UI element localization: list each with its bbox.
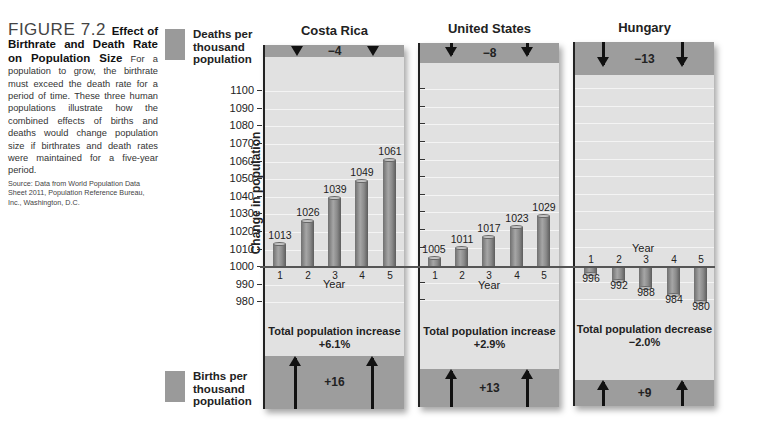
- total-label: Total population decrease: [575, 323, 714, 336]
- legend-births-line1: Births per: [193, 370, 252, 383]
- legend-deaths-line3: population: [193, 53, 252, 66]
- down-arrow-icon: [291, 46, 303, 56]
- figure-label: FIGURE 7.2: [8, 20, 106, 39]
- bar-year-5: [383, 160, 396, 267]
- figure-source: Source: Data from World Population Data …: [8, 179, 158, 208]
- up-arrow-icon: [371, 358, 374, 409]
- y-tick: 1000: [228, 260, 262, 272]
- births-value: +9: [575, 386, 714, 400]
- deaths-value: −8: [420, 46, 559, 60]
- down-arrow-icon: [602, 42, 605, 65]
- y-tick: 990: [228, 278, 262, 290]
- up-arrow-icon: [602, 382, 605, 406]
- figure-caption: FIGURE 7.2 Effect of Birthrate and Death…: [8, 24, 158, 208]
- bar-value: 1013: [264, 229, 296, 241]
- total-change: Total population decrease −2.0%: [575, 323, 714, 349]
- births-value: +16: [265, 375, 404, 389]
- x-axis-title: Year: [632, 242, 654, 254]
- y-tick: 1060: [228, 155, 262, 167]
- panel-title: Hungary: [575, 20, 714, 35]
- total-label: Total population increase: [420, 325, 559, 338]
- bar-year-3: [639, 267, 652, 288]
- bar-value: 1026: [292, 206, 324, 218]
- down-arrow-icon: [450, 43, 453, 55]
- down-arrow-icon: [681, 42, 684, 65]
- x-axis-title: Year: [323, 278, 345, 290]
- births-value: +13: [420, 381, 559, 395]
- y-tick: 1030: [228, 207, 262, 219]
- bar-value: 980: [685, 300, 717, 312]
- legend-births-line2: thousand: [193, 383, 252, 396]
- legend-births-swatch: [165, 371, 185, 402]
- births-band: +13: [420, 369, 559, 407]
- bar-year-2: [455, 248, 468, 267]
- legend-deaths-swatch: [165, 29, 185, 60]
- year-tick: 1: [584, 254, 598, 265]
- year-tick: 4: [510, 270, 524, 281]
- bar-year-2: [301, 221, 314, 267]
- total-change: Total population increase +6.1%: [265, 325, 404, 351]
- births-band: +9: [575, 380, 714, 406]
- y-tick: 1090: [228, 102, 262, 114]
- bar-value: 1029: [528, 201, 560, 213]
- bar-year-4: [355, 181, 368, 267]
- bar-year-3: [482, 237, 495, 267]
- bar-year-1: [273, 244, 286, 267]
- total-label: Total population increase: [265, 325, 404, 338]
- bar-value: 1011: [446, 233, 478, 245]
- total-change: Total population increase +2.9%: [420, 325, 559, 351]
- year-tick: 3: [639, 254, 653, 265]
- total-pct: +2.9%: [420, 338, 559, 351]
- up-arrow-icon: [526, 371, 529, 407]
- up-arrow-icon: [681, 382, 684, 406]
- year-tick: 1: [428, 270, 442, 281]
- year-tick: 5: [383, 270, 397, 281]
- year-tick: 2: [455, 270, 469, 281]
- year-tick: 4: [355, 270, 369, 281]
- y-tick: 1050: [228, 172, 262, 184]
- y-tick: 1080: [228, 119, 262, 131]
- deaths-band: −13: [575, 42, 714, 75]
- year-tick: 2: [612, 254, 626, 265]
- up-arrow-icon: [450, 371, 453, 407]
- bar-value: 1049: [346, 166, 378, 178]
- deaths-band: −8: [420, 43, 559, 63]
- legend-births-line3: population: [193, 395, 252, 408]
- baseline-1000: [260, 266, 715, 268]
- deaths-band: −4: [265, 45, 404, 57]
- x-axis-title: Year: [478, 279, 500, 291]
- legend-deaths: Deaths per thousand population: [165, 28, 252, 66]
- bar-year-4: [667, 267, 680, 295]
- legend-births: Births per thousand population: [165, 370, 252, 408]
- y-tick: 1010: [228, 243, 262, 255]
- down-arrow-icon: [367, 46, 379, 56]
- y-tick: 980: [228, 295, 262, 307]
- deaths-value: −13: [575, 52, 714, 66]
- bar-year-5: [694, 267, 707, 302]
- bar-value: 1061: [374, 145, 406, 157]
- year-tick: 1: [273, 270, 287, 281]
- bar-value: 1023: [501, 212, 533, 224]
- y-tick: 1100: [228, 84, 262, 96]
- y-tick: 1040: [228, 190, 262, 202]
- bar-year-4: [510, 227, 523, 267]
- deaths-value: −4: [265, 44, 404, 58]
- panel-title: United States: [420, 21, 559, 36]
- legend-deaths-line1: Deaths per: [193, 28, 252, 41]
- figure-body: For a population to grow, the birthrate …: [8, 54, 158, 176]
- total-pct: +6.1%: [265, 338, 404, 351]
- y-tick: 1070: [228, 137, 262, 149]
- births-band: +16: [265, 356, 404, 409]
- year-tick: 5: [694, 254, 708, 265]
- year-tick: 4: [667, 254, 681, 265]
- total-pct: −2.0%: [575, 336, 714, 349]
- y-tick: 1020: [228, 225, 262, 237]
- bar-value: 1039: [319, 183, 351, 195]
- panel-hungary: Hungary −13 Year 1 2 3 4 5 996 992 988 9…: [573, 42, 714, 406]
- bar-year-5: [537, 216, 550, 267]
- panel-title: Costa Rica: [265, 23, 404, 38]
- panel-united-states: United States −8 1005 1011 1017 1023 102…: [418, 43, 559, 407]
- year-tick: 2: [301, 270, 315, 281]
- up-arrow-icon: [294, 358, 297, 409]
- legend-deaths-line2: thousand: [193, 41, 252, 54]
